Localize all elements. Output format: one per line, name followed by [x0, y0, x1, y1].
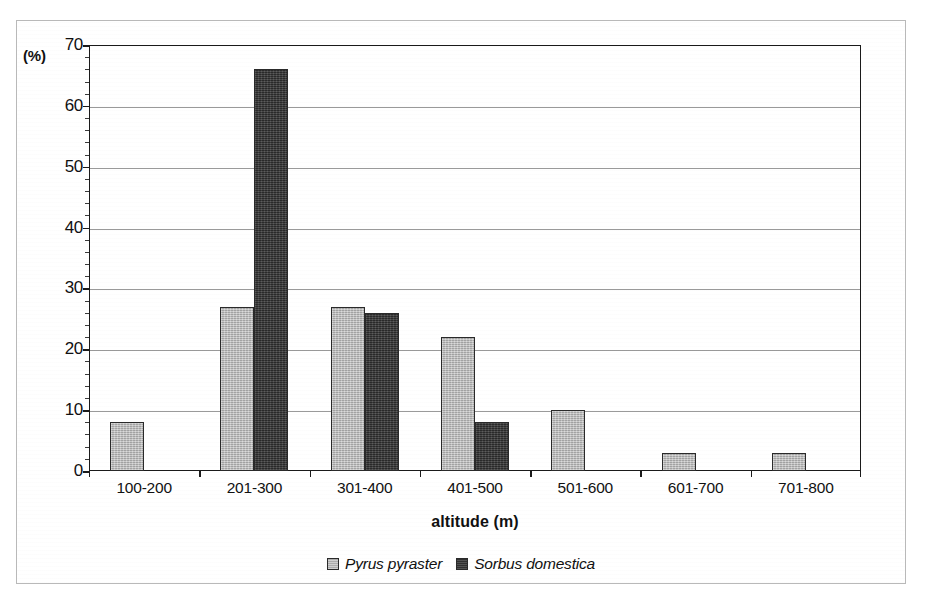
legend-swatch [456, 558, 468, 570]
y-tick-label: 40 [43, 218, 83, 238]
x-tick-label: 601-700 [668, 479, 723, 497]
x-tick [860, 471, 861, 477]
x-tick-label: 401-500 [447, 479, 502, 497]
legend: Pyrus pyrasterSorbus domestica [17, 555, 905, 573]
bars-layer [89, 45, 861, 471]
y-tick-label: 0 [43, 461, 83, 481]
x-axis-title: altitude (m) [89, 513, 861, 531]
x-axis-tick-labels: 100-200201-300301-400401-500501-600601-7… [89, 479, 861, 505]
y-tick-label: 20 [43, 339, 83, 359]
x-tick [640, 471, 641, 477]
x-tick-label: 201-300 [227, 479, 282, 497]
x-tick-label: 501-600 [558, 479, 613, 497]
x-tick [530, 471, 531, 477]
legend-item: Pyrus pyraster [327, 555, 442, 573]
y-tick-label: 70 [43, 35, 83, 55]
bar [365, 313, 399, 471]
y-tick-label: 60 [43, 96, 83, 116]
bar [254, 69, 288, 471]
legend-swatch [327, 558, 339, 570]
x-tick-label: 301-400 [337, 479, 392, 497]
figure-frame: (%) 010203040506070 100-200201-300301-40… [16, 20, 906, 584]
y-axis-tick-labels: 010203040506070 [37, 45, 83, 471]
bar [331, 307, 365, 471]
x-tick-label: 701-800 [778, 479, 833, 497]
bar-chart: (%) 010203040506070 100-200201-300301-40… [17, 21, 905, 583]
x-tick [751, 471, 752, 477]
legend-label: Pyrus pyraster [345, 555, 442, 573]
bar [441, 337, 475, 471]
x-tick [420, 471, 421, 477]
y-tick-label: 10 [43, 400, 83, 420]
x-tick [310, 471, 311, 477]
y-tick-label: 30 [43, 278, 83, 298]
bar [475, 422, 509, 471]
bar [662, 453, 696, 471]
bar [772, 453, 806, 471]
x-axis-ticks [89, 471, 861, 478]
y-tick-label: 50 [43, 157, 83, 177]
x-tick [199, 471, 200, 477]
legend-item: Sorbus domestica [456, 555, 595, 573]
x-tick-label: 100-200 [116, 479, 171, 497]
bar [110, 422, 144, 471]
legend-label: Sorbus domestica [474, 555, 595, 573]
x-tick [89, 471, 90, 477]
bar [551, 410, 585, 471]
bar [220, 307, 254, 471]
